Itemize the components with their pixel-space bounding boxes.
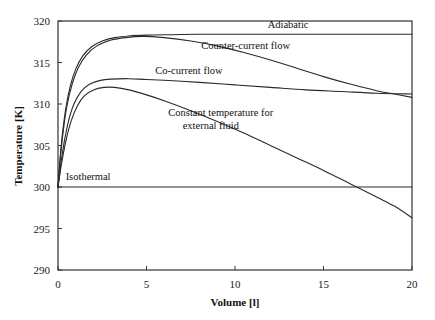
y-tick-label: 310 (34, 98, 51, 110)
curve-co-current-flow (58, 79, 412, 187)
y-tick-label: 305 (34, 140, 51, 152)
label-counter-current-flow: Counter-current flow (201, 40, 290, 51)
chart-figure: 290295300305310315320 05101520 Temperatu… (0, 0, 435, 320)
x-tick-label: 10 (230, 278, 242, 290)
label-adiabatic: Adiabatic (268, 19, 309, 30)
y-tick-label: 315 (34, 57, 51, 69)
y-tick-label: 295 (34, 223, 51, 235)
y-tick-label: 320 (34, 15, 51, 27)
plot-frame (58, 21, 412, 270)
x-tick-label: 15 (318, 278, 330, 290)
x-tick-label: 5 (144, 278, 150, 290)
label-isothermal: Isothermal (66, 171, 111, 182)
x-tick-label: 0 (55, 278, 61, 290)
temperature-volume-plot: 290295300305310315320 05101520 Temperatu… (0, 0, 435, 320)
label-co-current-flow: Co-current flow (155, 65, 223, 76)
label-constant-temperature-external-fluid: Constant temperature forexternal fluid (168, 107, 273, 131)
y-axis-title: Temperature [K] (12, 106, 24, 186)
y-tick-label: 300 (34, 181, 51, 193)
y-tick-label: 290 (34, 264, 51, 276)
x-tick-label: 20 (407, 278, 419, 290)
x-axis-title: Volume [l] (211, 296, 260, 308)
